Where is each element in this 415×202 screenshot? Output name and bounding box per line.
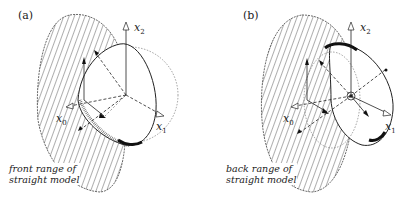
panel-b-caption: back range of straight model <box>225 163 297 185</box>
axis-x1-label: x1 <box>385 120 396 135</box>
panel-a: (a) x2 x0 x1 front range of straight mod… <box>0 0 207 202</box>
axis-x0-label: x0 <box>56 112 67 127</box>
panel-b-label: (b) <box>243 9 259 22</box>
axis-x0-label: x0 <box>283 112 294 127</box>
panel-b: (b) x2 x0 x1 back range of straight mode… <box>207 0 414 202</box>
axis-x2-label: x2 <box>134 21 145 36</box>
axis-x2-label: x2 <box>360 21 371 36</box>
axis-x1-label: x1 <box>156 120 167 135</box>
panel-a-label: (a) <box>18 9 33 22</box>
panel-a-caption: front range of straight model <box>8 163 80 185</box>
